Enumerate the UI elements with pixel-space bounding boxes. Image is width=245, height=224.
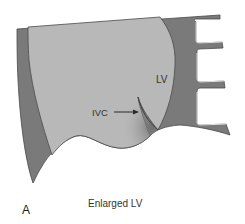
figure-caption: Enlarged LV — [88, 199, 142, 209]
heart-illustration — [0, 0, 245, 224]
notch-2 — [197, 53, 224, 82]
notch-3 — [197, 92, 226, 125]
ivc-label: IVC — [92, 108, 108, 118]
panel-letter: A — [22, 204, 30, 216]
echo-diagram: LV IVC A Enlarged LV — [0, 0, 245, 224]
notch-1 — [196, 22, 222, 43]
lv-label: LV — [156, 75, 168, 85]
lv-chamber — [28, 17, 175, 155]
